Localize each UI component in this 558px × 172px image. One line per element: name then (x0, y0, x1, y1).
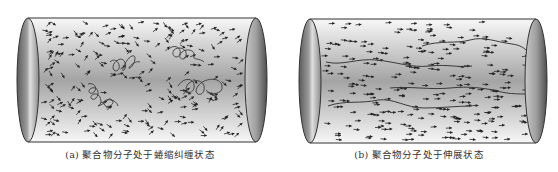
caption-stretched: (b) 聚合物分子处于伸展状态 (280, 147, 558, 161)
panel-stretched: (b) 聚合物分子处于伸展状态 (280, 0, 558, 172)
cylinder-left-cap (299, 19, 321, 143)
cylinder-left-cap (17, 18, 39, 142)
cylinder-right-cap (525, 19, 547, 143)
cylinder-right-cap (245, 18, 267, 142)
cylinder-coiled-diagram (0, 0, 280, 150)
panel-coiled: (a) 聚合物分子处于蜷缩纠缠状态 (0, 0, 280, 172)
cylinder-stretched-diagram (280, 0, 558, 150)
caption-coiled: (a) 聚合物分子处于蜷缩纠缠状态 (0, 147, 280, 161)
